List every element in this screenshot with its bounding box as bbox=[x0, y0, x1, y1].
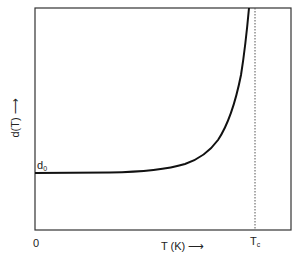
x-tick-origin: 0 bbox=[33, 238, 39, 249]
tc-main: T bbox=[250, 235, 257, 247]
x-axis-label: T (K) ⟶ bbox=[161, 241, 204, 252]
chart-plot-area bbox=[0, 0, 298, 261]
y-axis-label: d(T) ⟶ bbox=[10, 98, 21, 137]
d0-annotation: d0 bbox=[37, 160, 47, 172]
x-tick-tc: Tc bbox=[250, 236, 260, 248]
plot-frame bbox=[35, 8, 291, 230]
d0-subscript: 0 bbox=[43, 165, 47, 172]
d-of-t-curve bbox=[35, 8, 249, 173]
tc-subscript: c bbox=[257, 241, 261, 248]
